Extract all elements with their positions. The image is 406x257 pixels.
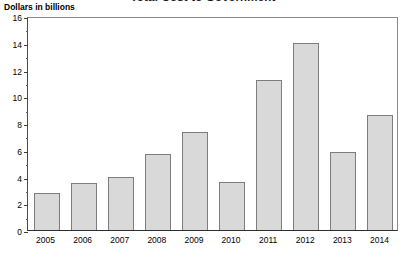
bar bbox=[34, 193, 60, 230]
y-tick-major bbox=[24, 45, 28, 46]
y-tick-minor bbox=[26, 138, 29, 139]
bar bbox=[330, 152, 356, 230]
y-tick-label: 12 bbox=[13, 67, 22, 76]
y-tick-minor bbox=[26, 31, 29, 32]
y-tick-major bbox=[24, 205, 28, 206]
x-tick-label: 2012 bbox=[296, 235, 315, 245]
x-tick-label: 2006 bbox=[73, 235, 92, 245]
y-tick-minor bbox=[26, 112, 29, 113]
x-tick-label: 2013 bbox=[333, 235, 352, 245]
bar bbox=[108, 177, 134, 231]
y-tick-label: 8 bbox=[17, 121, 22, 130]
x-tick-label: 2005 bbox=[36, 235, 55, 245]
y-tick-minor bbox=[26, 85, 29, 86]
y-axis-caption: Dollars in billions bbox=[4, 2, 75, 12]
x-tick-label: 2009 bbox=[184, 235, 203, 245]
x-tick-label: 2011 bbox=[259, 235, 277, 245]
y-tick-minor bbox=[26, 165, 29, 166]
y-tick-minor bbox=[26, 192, 29, 193]
y-tick-major bbox=[24, 18, 28, 19]
y-tick-label: 2 bbox=[17, 201, 22, 210]
bar-chart-figure: Total Cost to Government Dollars in bill… bbox=[0, 0, 406, 257]
bar bbox=[145, 154, 171, 230]
y-tick-label: 0 bbox=[17, 228, 22, 237]
bar bbox=[256, 80, 282, 230]
y-tick-major bbox=[24, 232, 28, 233]
y-tick-major bbox=[24, 152, 28, 153]
bar bbox=[71, 183, 97, 230]
y-tick-label: 4 bbox=[17, 174, 22, 183]
x-tick-label: 2008 bbox=[147, 235, 166, 245]
y-tick-minor bbox=[26, 219, 29, 220]
y-tick-label: 6 bbox=[17, 148, 22, 157]
x-tick-label: 2007 bbox=[110, 235, 129, 245]
y-tick-minor bbox=[26, 58, 29, 59]
y-tick-major bbox=[24, 98, 28, 99]
x-tick-label: 2010 bbox=[222, 235, 241, 245]
y-tick-major bbox=[24, 72, 28, 73]
bar bbox=[293, 43, 319, 230]
y-tick-label: 10 bbox=[13, 94, 22, 103]
bar bbox=[367, 115, 393, 230]
y-tick-label: 16 bbox=[13, 14, 22, 23]
bar bbox=[182, 132, 208, 230]
plot-area: 0246810121416 bbox=[27, 17, 398, 231]
y-tick-major bbox=[24, 125, 28, 126]
y-tick-label: 14 bbox=[13, 41, 22, 50]
y-tick-major bbox=[24, 179, 28, 180]
bar bbox=[219, 182, 245, 230]
x-tick-label: 2014 bbox=[370, 235, 389, 245]
